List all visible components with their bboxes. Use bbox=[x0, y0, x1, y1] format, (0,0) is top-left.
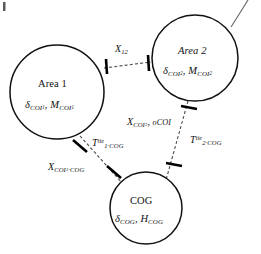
xcoi1-tail: ·COG bbox=[68, 166, 84, 173]
area2-m-subscript: COI bbox=[197, 70, 209, 77]
breaker-area2-cog-lower bbox=[166, 163, 182, 166]
area1-separator: , bbox=[45, 99, 48, 110]
node-label-cog-variables: δCOG, HCOG bbox=[115, 214, 163, 226]
xcoi2-separator: , bbox=[147, 116, 150, 127]
area2-delta-subscript: COI bbox=[168, 70, 180, 77]
reactance-label-coi2-ocoi: XCOI2, oCOI bbox=[127, 117, 171, 128]
node-circle-cog bbox=[110, 172, 182, 244]
area2-m-index: 2 bbox=[209, 71, 212, 76]
node-label-cog-name: COG bbox=[130, 196, 152, 207]
node-label-area2-name: Area 2 bbox=[178, 46, 207, 57]
xcoi2-subscript: COI bbox=[133, 121, 145, 128]
t1cog-subscript: 1·COG bbox=[104, 142, 123, 149]
figure-canvas: Area 1 δCOI1, MCOI1 Area 2 δCOI2, MCOI2 … bbox=[0, 0, 261, 254]
area1-delta-subscript: COI bbox=[30, 104, 42, 111]
node-circle-area2 bbox=[152, 15, 238, 101]
tie-line-area2-cog bbox=[166, 101, 188, 180]
area2-separator: , bbox=[183, 65, 186, 76]
node-label-area2-variables: δCOI2, MCOI2 bbox=[163, 66, 212, 78]
cog-h-subscript: COG bbox=[148, 218, 163, 225]
tie-label-area1-cog: Ttie1·COG bbox=[92, 138, 124, 150]
node-label-area1-name: Area 1 bbox=[38, 79, 67, 90]
tie-label-x12: X12 bbox=[115, 44, 128, 55]
t2cog-subscript: 2·COG bbox=[202, 139, 221, 146]
breaker-x12-right bbox=[148, 55, 149, 71]
node-circle-area1 bbox=[10, 45, 104, 139]
page-corner-mark bbox=[3, 2, 6, 11]
area1-m-index: 1 bbox=[71, 105, 74, 110]
breaker-area1-cog-lower bbox=[107, 166, 121, 178]
breaker-x12-left bbox=[106, 59, 107, 74]
reactance-label-coi1-cog: XCOI1·COG bbox=[48, 162, 84, 173]
node-label-area1-variables: δCOI1, MCOI1 bbox=[25, 100, 74, 112]
xcoi1-subscript: COI bbox=[54, 166, 66, 173]
cog-delta-subscript: COG bbox=[120, 218, 135, 225]
area2-m-symbol: M bbox=[188, 65, 197, 76]
area1-m-symbol: M bbox=[50, 99, 59, 110]
area1-m-subscript: COI bbox=[59, 104, 71, 111]
xcoi2-second-term: oCOI bbox=[153, 118, 172, 127]
cog-separator: , bbox=[135, 213, 138, 224]
tie-label-area2-cog: Ttie2·COG bbox=[190, 135, 222, 147]
cog-h-symbol: H bbox=[140, 213, 148, 224]
tie-line-x12 bbox=[104, 62, 151, 68]
breaker-area2-cog-upper bbox=[181, 106, 197, 109]
x12-subscript: 12 bbox=[121, 48, 128, 55]
page-edge-artifact bbox=[231, 0, 248, 27]
